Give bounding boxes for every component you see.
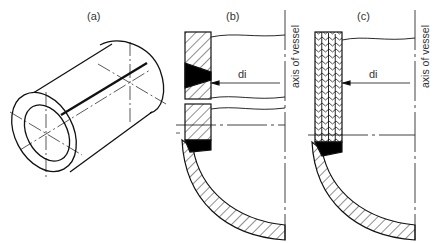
panel-a-label: (a) bbox=[87, 10, 100, 22]
panel-b-axis-label: axis of vessel bbox=[289, 25, 301, 88]
panel-b-label: (b) bbox=[226, 10, 239, 22]
panel-b-di-label: di bbox=[238, 68, 247, 80]
panel-a-cylinder bbox=[0, 41, 166, 183]
panel-c-section bbox=[308, 10, 415, 240]
diagram-canvas bbox=[0, 0, 438, 243]
panel-c-axis-label: axis of vessel bbox=[419, 25, 431, 88]
panel-c-di-label: di bbox=[369, 68, 378, 80]
panel-c-label: (c) bbox=[357, 10, 370, 22]
panel-b-section bbox=[176, 10, 285, 240]
